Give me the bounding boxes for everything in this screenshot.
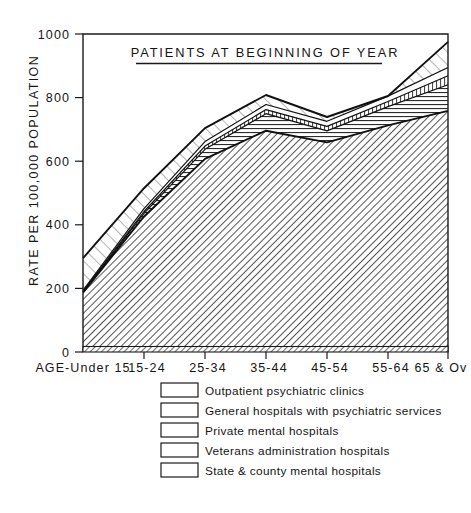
x-axis-baseline — [83, 347, 448, 353]
legend-item-general-hospitals-with-psychiatric-services[interactable]: General hospitals with psychiatric servi… — [161, 403, 442, 418]
chart-title: PATIENTS AT BEGINNING OF YEAR — [131, 45, 400, 60]
legend-label-private-mental-hospitals: Private mental hospitals — [205, 424, 339, 438]
y-tick-label-0: 0 — [62, 346, 70, 360]
x-tick-label-25-34: 25-34 — [189, 361, 226, 375]
y-axis-title: RATE PER 100,000 POPULATION — [27, 55, 41, 286]
legend-swatch-outpatient-psychiatric-clinics — [161, 383, 198, 397]
legend-label-state-county-mental-hospitals: State & county mental hospitals — [205, 464, 381, 478]
legend-item-veterans-administration-hospitals[interactable]: Veterans administration hospitals — [161, 443, 390, 458]
x-tick-marks — [144, 352, 448, 359]
stacked-area-chart: 0 200 400 600 800 1000 RATE PER 100,000 … — [0, 0, 471, 513]
y-tick-label-1000: 1000 — [38, 28, 70, 42]
legend-swatch-state-county-mental-hospitals — [161, 463, 198, 477]
y-tick-label-600: 600 — [46, 155, 70, 169]
y-tick-label-800: 800 — [46, 91, 70, 105]
legend-item-state-county-mental-hospitals[interactable]: State & county mental hospitals — [161, 463, 381, 478]
x-tick-label-under-15: AGE-Under 15 — [35, 361, 130, 375]
area-state-county-mental-hospitals — [83, 111, 448, 352]
legend-label-outpatient-psychiatric-clinics: Outpatient psychiatric clinics — [205, 384, 364, 398]
legend: Outpatient psychiatric clinics General h… — [161, 383, 442, 478]
legend-label-veterans-administration-hospitals: Veterans administration hospitals — [205, 444, 390, 458]
legend-swatch-general-hospitals-with-psychiatric-services — [161, 403, 198, 417]
y-tick-label-400: 400 — [46, 218, 70, 232]
x-tick-label-65-over: 65 & Ov — [415, 361, 468, 375]
y-tick-marks — [75, 34, 83, 352]
x-tick-label-35-44: 35-44 — [250, 361, 287, 375]
legend-label-general-hospitals-with-psychiatric-services: General hospitals with psychiatric servi… — [205, 404, 442, 418]
legend-item-outpatient-psychiatric-clinics[interactable]: Outpatient psychiatric clinics — [161, 383, 364, 398]
legend-item-private-mental-hospitals[interactable]: Private mental hospitals — [161, 423, 339, 438]
x-tick-label-55-64: 55-64 — [372, 361, 409, 375]
y-tick-label-200: 200 — [46, 282, 70, 296]
legend-swatch-private-mental-hospitals — [161, 423, 198, 437]
x-tick-label-45-54: 45-54 — [311, 361, 348, 375]
x-tick-label-15-24: 15-24 — [128, 361, 165, 375]
legend-swatch-veterans-administration-hospitals — [161, 443, 198, 457]
chart-figure: 0 200 400 600 800 1000 RATE PER 100,000 … — [0, 0, 471, 513]
